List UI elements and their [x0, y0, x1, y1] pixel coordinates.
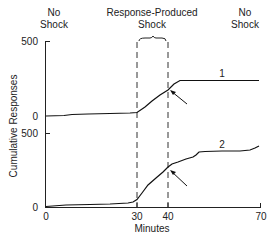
curve-1-label: 1 — [219, 68, 225, 79]
phase1-label-line1: No — [48, 7, 61, 18]
ytick-label-top-0: 0 — [32, 111, 38, 122]
ytick-label-bot-500: 500 — [21, 128, 38, 139]
phase2-label-line1: Response-Produced — [106, 7, 197, 18]
curve-2 — [46, 146, 259, 207]
xtick-label-40: 40 — [162, 211, 174, 222]
xtick-label-70: 70 — [255, 211, 267, 222]
cumulative-responses-chart: No Shock Response-Produced Shock No Shoc… — [0, 0, 272, 236]
phase1-label-line2: Shock — [40, 19, 69, 30]
ytick-label-top-500: 500 — [21, 36, 38, 47]
phase2-label-line2: Shock — [138, 19, 167, 30]
shock-period-brace — [139, 36, 166, 41]
y-axis-label: Cumulative Responses — [8, 75, 19, 178]
ytick-label-bot-0: 0 — [32, 202, 38, 213]
phase3-label-line2: Shock — [231, 19, 260, 30]
xtick-label-0: 0 — [43, 211, 49, 222]
curve-1 — [46, 81, 259, 117]
curve-2-label: 2 — [219, 139, 225, 150]
phase3-label-line1: No — [239, 7, 252, 18]
xtick-label-30: 30 — [131, 211, 143, 222]
x-axis-label: Minutes — [134, 223, 169, 234]
